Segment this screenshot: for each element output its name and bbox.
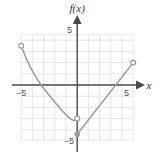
parabola-branch-curve (21, 46, 77, 121)
y-axis-tick-label-positive: 5 (67, 25, 72, 35)
x-axis-tick-label-negative: −5 (16, 88, 26, 98)
function-graph-figure: 5 −5 −5 5 f(x) x (0, 0, 161, 163)
y-axis-arrowhead (73, 15, 82, 24)
endpoint-open-left (19, 43, 24, 48)
x-axis-arrowhead (136, 81, 145, 90)
endpoint-closed-line-left (75, 132, 79, 136)
y-axis-name-label: f(x) (70, 2, 86, 15)
line-branch-segment (77, 63, 133, 135)
x-axis-tick-label-positive: 5 (124, 88, 129, 98)
y-axis-tick-label-negative: −5 (64, 136, 74, 146)
x-axis-name-label: x (146, 79, 152, 91)
graph-canvas: 5 −5 −5 5 f(x) x (0, 0, 161, 163)
axis-lines (12, 24, 136, 152)
endpoint-open-parabola-right (75, 116, 80, 121)
endpoint-open-line-right (131, 60, 136, 65)
